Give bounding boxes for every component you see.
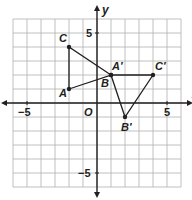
coordinate-plane: xyO−555−5ABCA′B′C′ (0, 0, 192, 200)
tick-label-x-5: 5 (164, 106, 170, 118)
vertex-label: B (101, 77, 109, 89)
vertex-point (123, 115, 127, 119)
tick-label-x-neg5: −5 (18, 106, 31, 118)
arrow-up-icon (94, 5, 100, 11)
origin-label: O (84, 106, 93, 118)
vertex-label: A′ (111, 60, 124, 72)
vertex-point (151, 73, 155, 77)
vertex-point (109, 73, 113, 77)
tick-label-y-5: 5 (86, 27, 92, 39)
vertex-label: A (58, 87, 67, 99)
x-axis-label: x (191, 87, 192, 101)
triangle-abc-prime (111, 75, 153, 117)
tick-label-y-neg5: −5 (78, 167, 91, 179)
axes (1, 5, 192, 198)
vertex-point (67, 87, 71, 91)
vertex-point (67, 45, 71, 49)
vertex-label: C (59, 32, 68, 44)
arrow-left-icon (1, 100, 7, 106)
labels: xyO−555−5ABCA′B′C′ (18, 3, 192, 179)
y-axis-label: y (101, 3, 110, 17)
arrow-down-icon (94, 192, 100, 198)
vertex-label: B′ (121, 121, 133, 133)
vertex-label: C′ (155, 60, 167, 72)
